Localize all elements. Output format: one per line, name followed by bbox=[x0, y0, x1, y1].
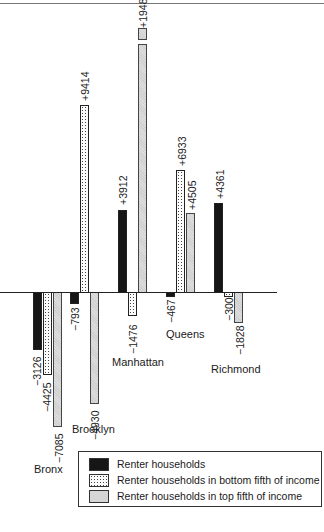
label-bronx-top-fifth: −7085 bbox=[54, 434, 65, 464]
legend-label: Renter households in bottom fifth of inc… bbox=[117, 474, 320, 486]
legend-item-renter: Renter households bbox=[89, 457, 205, 471]
category-label-brooklyn: Brooklyn bbox=[72, 423, 115, 435]
legend-item-top-fifth: Renter households in top fifth of income bbox=[89, 489, 302, 503]
category-label-manhattan: Manhattan bbox=[112, 356, 164, 368]
bar-manhattan-bottom-fifth bbox=[128, 292, 137, 316]
label-richmond-bottom-fifth: −300 bbox=[224, 297, 235, 321]
bar-queens-top-fifth bbox=[186, 213, 195, 293]
label-richmond-top-fifth: −1828 bbox=[235, 326, 246, 356]
bar-queens-bottom-fifth bbox=[176, 170, 185, 293]
label-manhattan-bottom-fifth: −1476 bbox=[128, 325, 139, 355]
label-richmond-renter: +4361 bbox=[215, 170, 226, 200]
legend-label: Renter households bbox=[117, 458, 205, 470]
category-label-queens: Queens bbox=[166, 328, 205, 340]
zero-baseline bbox=[0, 292, 277, 293]
label-bronx-bottom-fifth: −4425 bbox=[42, 383, 53, 413]
label-brooklyn-renter: −793 bbox=[70, 307, 81, 331]
bar-bronx-bottom-fifth bbox=[43, 292, 52, 375]
bar-manhattan-top-fifth bbox=[138, 44, 147, 293]
bar-brooklyn-top-fifth bbox=[90, 292, 99, 404]
label-queens-renter: −467 bbox=[166, 299, 177, 323]
bar-richmond-top-fifth bbox=[234, 292, 243, 323]
legend-swatch-black bbox=[89, 458, 109, 471]
category-label-richmond: Richmond bbox=[211, 363, 261, 375]
bar-bronx-top-fifth bbox=[53, 292, 62, 427]
legend: Renter households Renter households in b… bbox=[78, 451, 322, 507]
category-label-bronx: Bronx bbox=[34, 463, 63, 475]
label-queens-top-fifth: +4505 bbox=[187, 181, 198, 211]
legend-label: Renter households in top fifth of income bbox=[117, 490, 302, 502]
legend-item-bottom-fifth: Renter households in bottom fifth of inc… bbox=[89, 473, 320, 487]
bar-brooklyn-renter bbox=[70, 292, 79, 304]
legend-swatch-gray bbox=[89, 490, 109, 503]
top-rule bbox=[0, 3, 324, 4]
label-queens-bottom-fifth: +6933 bbox=[177, 137, 188, 167]
label-manhattan-top-fifth: +19484 bbox=[138, 0, 149, 28]
bar-brooklyn-bottom-fifth bbox=[80, 105, 89, 293]
label-manhattan-renter: +3912 bbox=[118, 176, 129, 206]
label-brooklyn-bottom-fifth: +9414 bbox=[80, 72, 91, 102]
bar-bronx-renter bbox=[33, 292, 42, 350]
bar-manhattan-top-fifth-cap bbox=[138, 28, 147, 40]
bar-richmond-renter bbox=[214, 203, 223, 293]
legend-swatch-dotted bbox=[89, 474, 109, 487]
bar-manhattan-renter bbox=[118, 210, 127, 293]
